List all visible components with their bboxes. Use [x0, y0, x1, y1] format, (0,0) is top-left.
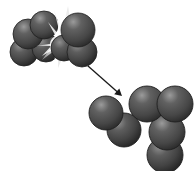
burst-overlay: [0, 0, 196, 171]
molecular-reaction-figure: reactant collision complex bond-breaking…: [0, 0, 196, 171]
atom-r1: [13, 19, 43, 49]
atom-a2: [107, 113, 141, 147]
atom-r6: [67, 37, 97, 67]
atom-b4: [147, 137, 183, 171]
reactant-left-atoms: [10, 11, 60, 66]
product-a-atoms: [89, 96, 141, 147]
atom-r4: [32, 34, 60, 62]
atom-r3: [30, 11, 58, 39]
atom-r2: [10, 38, 38, 66]
product-b-atoms: [129, 86, 193, 171]
atom-a1: [89, 96, 123, 130]
atom-b2: [157, 86, 193, 122]
atom-r7: [51, 35, 77, 61]
reactant-complex: [0, 0, 196, 171]
atom-r5: [61, 13, 95, 47]
atom-b1: [129, 86, 165, 122]
reaction-arrow: [88, 66, 122, 96]
bond-breaking-burst-icon: [36, 6, 92, 68]
atom-b3: [149, 114, 185, 150]
reactant-right-atoms: [51, 13, 97, 67]
